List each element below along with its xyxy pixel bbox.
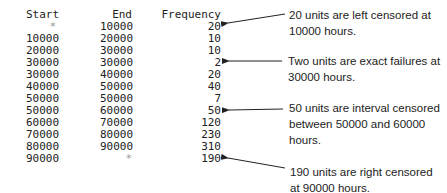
annotation-exact-failures: Two units are exact failures at 30000 ho…: [288, 53, 440, 85]
arrow-interval-censored: [229, 109, 283, 110]
arrow-left-censored: [228, 14, 285, 23]
arrow-right-censored: [228, 158, 285, 168]
annotation-interval-censored: 50 units are interval censored between 5…: [289, 100, 440, 148]
annotation-right-censored: 190 units are right censored at 90000 ho…: [290, 164, 433, 193]
annotation-left-censored: 20 units are left censored at 10000 hour…: [289, 7, 431, 39]
